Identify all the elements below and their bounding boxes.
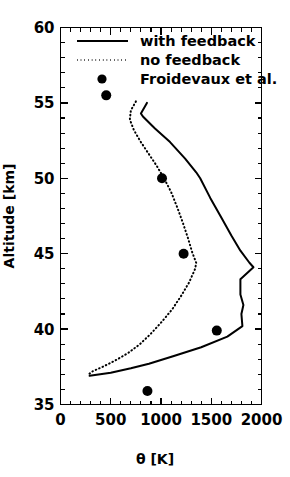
chart-legend: with feedback no feedback Froidevaux et … — [77, 33, 277, 87]
x-axis-title: θ [K] — [136, 451, 174, 467]
legend-entry-froidevaux: Froidevaux et al. — [97, 71, 277, 87]
legend-label-froidevaux: Froidevaux et al. — [140, 71, 277, 87]
y-axis-title: Altitude [km] — [1, 164, 17, 269]
data-line-with-feedback — [90, 103, 254, 376]
data-marker-froidevaux — [142, 386, 152, 396]
chart-canvas: 0500100015002000 354045505560 θ [K] Alti… — [0, 0, 290, 477]
x-tick-label: 1000 — [140, 411, 182, 429]
legend-entry-no-feedback: no feedback — [77, 52, 240, 68]
y-tick-label: 55 — [34, 94, 55, 112]
y-tick-label: 45 — [34, 245, 55, 263]
legend-entry-with-feedback: with feedback — [77, 33, 256, 49]
y-tick-label: 35 — [34, 396, 55, 414]
x-tick-label: 500 — [95, 411, 126, 429]
y-tick-label: 40 — [34, 321, 55, 339]
data-marker-froidevaux — [101, 90, 111, 100]
y-tick-label: 60 — [34, 19, 55, 37]
x-tick-label: 2000 — [241, 411, 283, 429]
y-axis-tick-labels: 354045505560 — [34, 19, 55, 414]
data-series-group — [89, 90, 254, 396]
data-marker-froidevaux — [157, 173, 167, 183]
data-marker-froidevaux — [212, 326, 222, 336]
legend-label-with-feedback: with feedback — [140, 33, 256, 49]
data-marker-froidevaux — [179, 249, 189, 259]
x-tick-label: 1500 — [190, 411, 232, 429]
chart-figure: 0500100015002000 354045505560 θ [K] Alti… — [0, 0, 290, 477]
legend-swatch-marker-dot — [97, 74, 106, 83]
data-line-no-feedback — [89, 101, 197, 374]
x-axis-tick-labels: 0500100015002000 — [55, 411, 282, 429]
legend-label-no-feedback: no feedback — [140, 52, 240, 68]
x-tick-label: 0 — [55, 411, 65, 429]
y-tick-label: 50 — [34, 170, 55, 188]
